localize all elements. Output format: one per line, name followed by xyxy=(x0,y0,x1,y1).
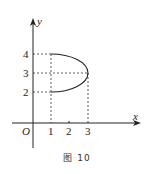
x-tick-label-3: 3 xyxy=(85,125,91,137)
y-axis-label: y xyxy=(36,15,42,27)
x-tick-label-1: 1 xyxy=(48,125,54,137)
x-tick-label-2: 2 xyxy=(66,125,72,137)
figure-caption: 图 10 xyxy=(0,151,154,164)
axes xyxy=(12,22,137,148)
y-tick-label-3: 3 xyxy=(23,67,29,79)
y-tick-label-4: 4 xyxy=(23,48,29,60)
x-axis-label: x xyxy=(132,110,138,122)
origin-label: O xyxy=(22,125,30,137)
coordinate-diagram: y x O 1 2 3 4 3 2 xyxy=(0,0,154,174)
y-tick-label-2: 2 xyxy=(23,86,29,98)
dashed-guides xyxy=(33,54,88,123)
